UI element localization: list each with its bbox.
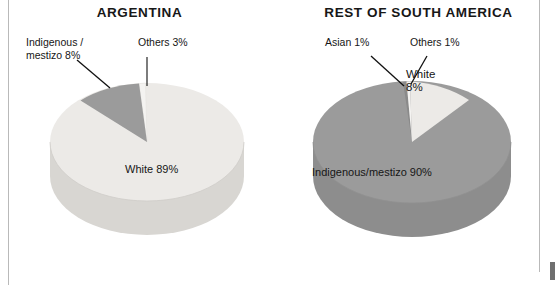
label-indigenous-argentina: Indigenous / mestizo 8% <box>26 36 83 61</box>
pie-chart-argentina: ARGENTINA <box>0 0 279 285</box>
leader-line-asian-rest-of-south-america <box>371 56 404 86</box>
pie-chart-rest-of-south-america: REST OF SOUTH AMERICA <box>279 0 558 285</box>
label-indigenous-rest-of-south-america: Indigenous/mestizo 90% <box>312 166 432 179</box>
label-asian-rest-of-south-america: Asian 1% <box>325 36 369 49</box>
figure-canvas: ARGENTINA <box>0 0 558 285</box>
label-white-argentina: White 89% <box>125 163 178 176</box>
leader-line-indigenous-argentina <box>77 60 110 88</box>
label-others-rest-of-south-america: Others 1% <box>410 36 460 49</box>
label-others-argentina: Others 3% <box>138 36 188 49</box>
label-white-rest-of-south-america: White 8% <box>406 68 435 93</box>
